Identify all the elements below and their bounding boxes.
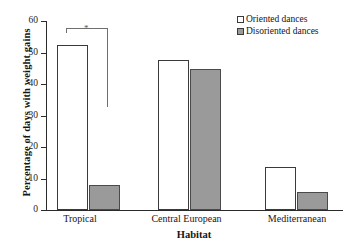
legend-label-oriented: Oriented dances <box>246 14 307 24</box>
y-tick-20 <box>41 147 46 148</box>
y-tick-0 <box>41 210 46 211</box>
filled-square-icon <box>237 28 244 35</box>
x-label-tropical: Tropical <box>44 213 116 224</box>
x-label-central-european: Central European <box>134 213 239 224</box>
legend-label-disoriented: Disoriented dances <box>246 26 319 36</box>
legend-item-oriented: Oriented dances <box>237 13 319 25</box>
y-tick-60 <box>41 21 46 22</box>
y-tick-label-40: 40 <box>12 79 38 89</box>
y-tick-40 <box>41 84 46 85</box>
y-tick-label-60: 60 <box>12 16 38 26</box>
x-axis-line <box>46 210 343 211</box>
y-tick-label-50: 50 <box>12 48 38 58</box>
bracket-right-tick <box>107 28 108 107</box>
bar-chart-figure: Percentage of days with weight gains 60 … <box>0 0 356 248</box>
bar-central-european-disoriented <box>190 69 221 210</box>
bar-central-european-oriented <box>158 60 189 210</box>
chart-legend: Oriented dances Disoriented dances <box>237 13 319 37</box>
bar-tropical-disoriented <box>89 185 120 210</box>
bracket-left-tick <box>66 28 67 33</box>
open-square-icon <box>237 16 244 23</box>
bar-mediterranean-disoriented <box>297 192 328 210</box>
y-tick-label-0: 0 <box>12 205 38 215</box>
y-tick-50 <box>41 53 46 54</box>
y-tick-label-10: 10 <box>12 174 38 184</box>
x-label-mediterranean: Mediterranean <box>247 213 347 224</box>
y-axis-line <box>46 21 47 211</box>
bar-tropical-oriented <box>57 45 88 210</box>
legend-item-disoriented: Disoriented dances <box>237 25 319 37</box>
y-tick-30 <box>41 116 46 117</box>
significance-asterisk: * <box>84 24 89 33</box>
y-tick-label-30: 30 <box>12 111 38 121</box>
y-tick-10 <box>41 179 46 180</box>
bar-mediterranean-oriented <box>265 167 296 210</box>
y-tick-label-20: 20 <box>12 142 38 152</box>
x-axis-title: Habitat <box>44 229 344 240</box>
